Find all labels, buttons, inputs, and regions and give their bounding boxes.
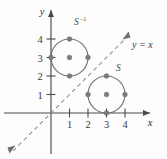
line-y-equals-x-label: y = x [131,39,153,50]
point-s-inverse-center [67,55,72,60]
x-axis-label: x [147,117,153,128]
y-axis-label: y [39,6,45,17]
y-tick-label-4: 4 [37,34,43,45]
curve-s-inverse-label-exponent: –1 [79,15,87,22]
y-tick-label-1: 1 [37,90,42,101]
x-tick-label-4: 4 [122,119,128,130]
x-tick-labels: 1 2 3 4 [67,119,129,130]
point-s-top [104,74,109,79]
axes-group [4,10,150,154]
line-y-equals-x [13,37,127,151]
point-s-inverse-bottom [67,74,72,79]
curve-s-label: S [116,63,121,73]
y-axis-arrow-icon [48,10,54,17]
y-tick-label-2: 2 [37,71,42,82]
dashed-arrow-up-icon [123,32,131,40]
x-tick-label-1: 1 [67,119,72,130]
point-s-center [104,92,109,97]
x-tick-label-2: 2 [85,119,90,130]
point-s-inverse-right [86,55,91,60]
point-s-right [123,92,128,97]
point-s-left [86,92,91,97]
figure-canvas: 1 2 3 4 1 2 3 4 y x S –1 S y = x [0,0,167,159]
curve-s-inverse-label: S [74,17,79,27]
y-tick-label-3: 3 [37,53,42,64]
point-s-inverse-left [49,55,54,60]
point-s-bottom [104,111,109,116]
line-y-equals-x-group [8,32,131,154]
x-tick-label-3: 3 [104,119,109,130]
coordinate-plane-figure: 1 2 3 4 1 2 3 4 y x S –1 S y = x [0,0,167,159]
y-tick-labels: 1 2 3 4 [37,34,43,101]
x-axis-arrow-icon [143,110,150,116]
point-s-inverse-top [67,37,72,42]
